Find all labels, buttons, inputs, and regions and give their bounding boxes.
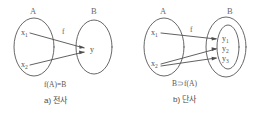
element-y2-sub: 2 bbox=[226, 48, 229, 54]
element-x2-sub: 2 bbox=[25, 64, 28, 70]
set-a-ellipse bbox=[14, 18, 54, 76]
panel-caption-surjection: a) 전사 bbox=[44, 97, 67, 105]
element-x2: x2 bbox=[151, 60, 158, 68]
element-y3: y3 bbox=[222, 55, 229, 63]
set-label-b: B bbox=[91, 7, 97, 16]
element-y1: y1 bbox=[222, 35, 229, 43]
element-x2: x2 bbox=[21, 61, 28, 69]
element-y3-sub: 3 bbox=[226, 58, 229, 64]
set-label-a: A bbox=[160, 7, 166, 16]
element-x1: x1 bbox=[151, 29, 158, 37]
map-label-f: f bbox=[190, 26, 193, 34]
set-label-b: B bbox=[227, 7, 233, 16]
relation-text: B⊃f(A) bbox=[172, 80, 197, 88]
panel-caption-injection: b) 단사 bbox=[173, 96, 196, 104]
set-a-ellipse bbox=[144, 18, 184, 76]
element-y1-sub: 1 bbox=[226, 38, 229, 44]
arrowheads bbox=[211, 37, 217, 61]
set-label-a: A bbox=[30, 7, 36, 16]
element-y: y bbox=[90, 46, 94, 54]
diagram-panel-surjection: A B x1 x2 y f f(A)=B a) 전사 bbox=[0, 0, 127, 117]
element-x1: x1 bbox=[21, 29, 28, 37]
element-x2-sub: 2 bbox=[155, 63, 158, 69]
element-x1-sub: 1 bbox=[25, 32, 28, 38]
element-y-base: y bbox=[90, 45, 94, 54]
arrow-x1-to-y bbox=[30, 33, 84, 48]
element-x1-sub: 1 bbox=[155, 32, 158, 38]
relation-text: f(A)=B bbox=[44, 81, 66, 89]
map-label-f: f bbox=[62, 28, 65, 36]
figure-root: A B x1 x2 y f f(A)=B a) 전사 bbox=[0, 0, 253, 117]
arrowheads bbox=[79, 45, 85, 54]
element-y2: y2 bbox=[222, 45, 229, 53]
diagram-panel-injection: A B x1 x2 y1 y2 y3 f B⊃f(A) b) 단사 bbox=[126, 0, 253, 117]
arrow-x2-to-y bbox=[30, 52, 84, 65]
